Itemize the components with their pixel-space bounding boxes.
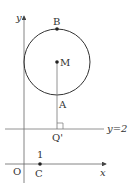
point-b: [55, 27, 59, 31]
right-angle-mark: [57, 123, 63, 129]
label-m: M: [60, 57, 70, 68]
label-origin: O: [13, 166, 21, 177]
label-line-y2: y=2: [106, 123, 127, 134]
label-a: A: [58, 99, 67, 110]
y-axis-label: y: [15, 12, 22, 23]
label-b: B: [53, 16, 60, 27]
x-axis-label: x: [100, 167, 106, 178]
label-c-tick: 1: [37, 149, 43, 160]
label-q-prime: Q': [52, 132, 63, 143]
point-m: [55, 60, 59, 64]
diagram: y B M A Q' y=2 1 O C x: [0, 0, 137, 190]
label-c: C: [35, 168, 43, 179]
point-c: [38, 162, 42, 166]
geometry-figure: y B M A Q' y=2 1 O C x: [0, 0, 137, 190]
